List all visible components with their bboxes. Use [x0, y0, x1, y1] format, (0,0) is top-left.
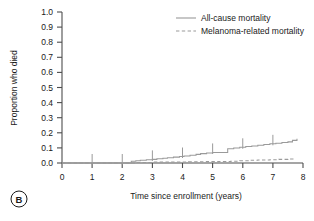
- y-tick-label-0.2: 0.2: [41, 128, 53, 138]
- y-axis-title: Proportion who died: [9, 50, 19, 126]
- x-tick-label-1: 1: [90, 172, 95, 182]
- y-tick-label-0.3: 0.3: [41, 113, 53, 123]
- panel-label-letter: B: [16, 194, 23, 205]
- y-tick-label-0.6: 0.6: [41, 67, 53, 77]
- x-tick-label-5: 5: [210, 172, 215, 182]
- legend-label-all-cause: All-cause mortality: [201, 13, 271, 23]
- x-tick-label-3: 3: [150, 172, 155, 182]
- survival-curve-chart: 1.0 0.9 0.8 0.7 0.6 0.5 0.4 0.3 0.2 0.1 …: [0, 0, 314, 221]
- y-tick-label-0.0: 0.0: [41, 158, 53, 168]
- y-tick-label-0.7: 0.7: [41, 52, 53, 62]
- x-tick-label-6: 6: [240, 172, 245, 182]
- x-tick-label-2: 2: [120, 172, 125, 182]
- y-tick-label-0.9: 0.9: [41, 22, 53, 32]
- x-tick-label-4: 4: [180, 172, 185, 182]
- y-tick-label-0.1: 0.1: [41, 143, 53, 153]
- x-tick-label-8: 8: [301, 172, 306, 182]
- y-tick-label-0.5: 0.5: [41, 83, 53, 93]
- x-tick-label-7: 7: [271, 172, 276, 182]
- y-tick-label-1.0: 1.0: [41, 7, 53, 17]
- x-tick-label-0: 0: [60, 172, 65, 182]
- y-tick-label-0.8: 0.8: [41, 37, 53, 47]
- legend-label-melanoma-related: Melanoma-related mortality: [201, 26, 305, 36]
- x-axis-title: Time since enrollment (years): [130, 191, 242, 201]
- y-tick-label-0.4: 0.4: [41, 98, 53, 108]
